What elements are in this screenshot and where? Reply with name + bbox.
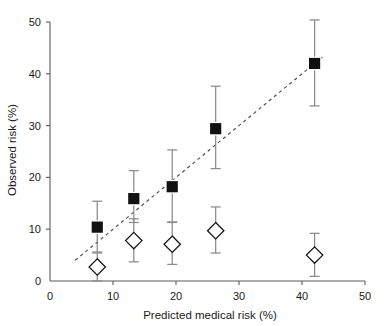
- filled-square-marker: [209, 123, 221, 135]
- filled-square-marker: [308, 57, 320, 69]
- chart-container: 01020304050 01020304050 Observed risk (%…: [0, 0, 388, 326]
- filled-square-marker: [91, 221, 103, 233]
- x-tick-label: 20: [170, 290, 182, 302]
- x-tick-label: 30: [233, 290, 245, 302]
- y-axis-title: Observed risk (%): [6, 104, 18, 196]
- y-tick-label: 50: [29, 16, 41, 28]
- x-tick-label: 0: [47, 290, 53, 302]
- x-tick-label: 10: [107, 290, 119, 302]
- filled-square-marker: [128, 192, 140, 204]
- y-tick-label: 30: [29, 120, 41, 132]
- scatter-plot-with-error-bars: 01020304050 01020304050 Observed risk (%…: [0, 0, 388, 326]
- x-axis-title: Predicted medical risk (%): [143, 309, 277, 321]
- y-tick-label: 40: [29, 68, 41, 80]
- y-tick-label: 10: [29, 223, 41, 235]
- y-tick-label: 20: [29, 171, 41, 183]
- filled-square-marker: [166, 181, 178, 193]
- y-tick-label: 0: [35, 275, 41, 287]
- x-tick-label: 40: [296, 290, 308, 302]
- x-tick-label: 50: [359, 290, 371, 302]
